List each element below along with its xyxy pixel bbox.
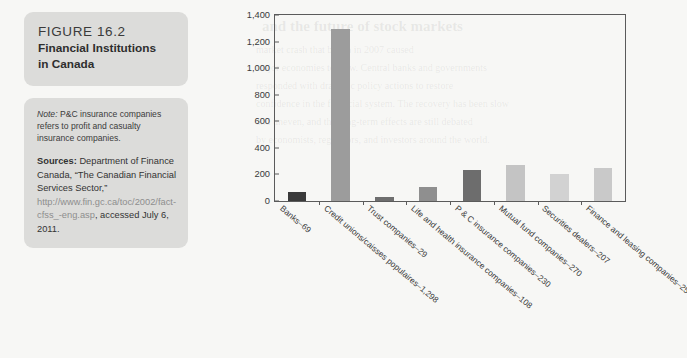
figure-number: FIGURE 16.2 [38, 23, 176, 40]
bar [463, 170, 481, 201]
bar [288, 192, 306, 201]
bar [550, 174, 568, 202]
y-axis-tick-label: 200 [254, 169, 270, 179]
figure-sources: Sources: Department of Finance Canada, “… [37, 155, 177, 236]
x-axis-category-label: Mutual fund companies–270 [497, 204, 583, 278]
bar [331, 29, 349, 201]
x-axis-labels: Banks–69Credit unions/caisses populaires… [274, 204, 626, 358]
y-axis-tick-label: 1,200 [247, 37, 270, 47]
y-axis-tick-label: 600 [254, 116, 270, 126]
y-axis-tick-label: 800 [254, 90, 270, 100]
figure-caption-column: FIGURE 16.2 Financial Institutions in Ca… [24, 12, 188, 248]
y-axis-tick-label: 1,000 [247, 63, 270, 73]
x-axis-category-label: Banks–69 [278, 204, 312, 234]
figure-title-line-1: Financial Institutions [38, 41, 156, 55]
bar [375, 197, 393, 201]
bars-layer [275, 15, 625, 201]
figure-title-line-2: in Canada [38, 57, 94, 71]
y-axis-tick-label: 1,400 [247, 10, 270, 20]
figure-title-box: FIGURE 16.2 Financial Institutions in Ca… [24, 12, 188, 86]
bar-chart: 02004006008001,0001,2001,400 Banks–69Cre… [228, 8, 678, 353]
note-and-sources-box: Note: P&C insurance companies refers to … [24, 98, 188, 248]
y-axis-tick-label: 0 [265, 196, 270, 206]
bar [594, 168, 612, 201]
figure-note: Note: P&C insurance companies refers to … [37, 108, 177, 145]
figure-title: Financial Institutions in Canada [38, 41, 176, 72]
y-axis-tick-label: 400 [254, 143, 270, 153]
sources-label: Sources: [37, 156, 77, 166]
bar [506, 165, 524, 201]
note-label: Note: [37, 109, 58, 119]
plot-area: 02004006008001,0001,2001,400 [274, 14, 626, 202]
bar [419, 187, 437, 201]
